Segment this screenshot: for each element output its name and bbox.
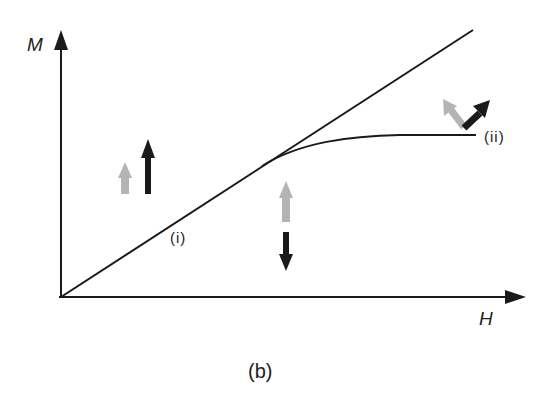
black-up-arrow-icon <box>141 139 155 194</box>
saturating-curve <box>262 135 476 166</box>
gray-up-arrow-icon <box>118 162 132 194</box>
y-axis-label: M <box>27 34 43 55</box>
gray-tilted-arrow-icon <box>443 99 464 127</box>
x-axis-label: H <box>479 308 493 329</box>
black-down-arrow-icon <box>279 232 293 271</box>
point-label-i: (i) <box>170 229 186 246</box>
magnetization-diagram: M H (i) (ii) <box>0 0 549 400</box>
spin-pair-middle <box>279 181 293 271</box>
spin-pair-left <box>118 139 155 194</box>
x-axis <box>59 290 526 304</box>
spin-pair-right <box>443 99 490 128</box>
x-axis-arrowhead-icon <box>505 290 526 304</box>
y-axis-arrowhead-icon <box>54 30 68 50</box>
figure-caption: (b) <box>248 360 272 382</box>
black-tilted-arrow-icon <box>464 100 490 128</box>
point-label-ii: (ii) <box>484 128 505 145</box>
y-axis <box>54 30 68 297</box>
gray-up-arrow-icon <box>279 181 293 222</box>
